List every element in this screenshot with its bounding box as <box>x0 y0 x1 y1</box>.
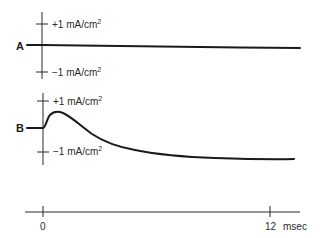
time-label-12: 12 <box>265 221 277 232</box>
panel-a: +1 mA/cm2 −1 mA/cm2 A <box>16 12 300 79</box>
panel-b: +1 mA/cm2 −1 mA/cm2 B <box>16 93 294 165</box>
time-axis: 0 12 msec <box>25 206 307 232</box>
panel-b-plus1-label: +1 mA/cm2 <box>53 95 102 107</box>
trace-a-label: A <box>16 40 24 52</box>
trace-b-label: B <box>16 122 24 134</box>
time-unit-label: msec <box>283 221 307 232</box>
panel-b-minus1-label: −1 mA/cm2 <box>53 145 102 157</box>
chart: +1 mA/cm2 −1 mA/cm2 A +1 mA/cm2 −1 mA/cm… <box>0 0 323 238</box>
panel-a-minus1-label: −1 mA/cm2 <box>52 66 101 78</box>
trace-a-line <box>27 45 300 48</box>
time-label-0: 0 <box>40 221 46 232</box>
panel-a-plus1-label: +1 mA/cm2 <box>52 18 101 30</box>
